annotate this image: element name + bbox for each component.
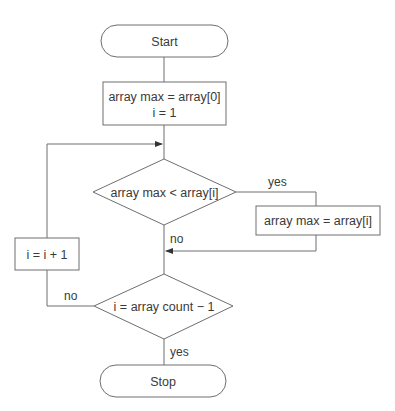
init-label-line-1: array max = array[0] bbox=[108, 90, 220, 104]
compare-label: array max < array[i] bbox=[110, 186, 218, 200]
check-end-decision: i = array count − 1 bbox=[94, 274, 233, 339]
check-end-no-label: no bbox=[64, 289, 78, 303]
edge-update-to-merge bbox=[166, 235, 316, 251]
start-label: Start bbox=[151, 35, 178, 49]
start-terminal: Start bbox=[101, 25, 228, 57]
compare-no-label: no bbox=[170, 232, 184, 246]
increment-label: i = i + 1 bbox=[27, 248, 68, 262]
flowchart-diagram: Start array max = array[0] i = 1 array m… bbox=[0, 0, 395, 411]
update-max-process-box: array max = array[i] bbox=[256, 206, 380, 235]
compare-decision: array max < array[i] bbox=[93, 159, 236, 225]
check-end-label: i = array count − 1 bbox=[114, 300, 215, 314]
init-process-box: array max = array[0] i = 1 bbox=[103, 82, 226, 125]
check-end-yes-label: yes bbox=[170, 345, 189, 359]
edge-compare-yes bbox=[236, 192, 316, 206]
update-max-label: array max = array[i] bbox=[264, 214, 372, 228]
stop-label: Stop bbox=[150, 375, 176, 389]
stop-terminal: Stop bbox=[100, 365, 226, 397]
init-label-line-2: i = 1 bbox=[153, 106, 177, 120]
increment-process-box: i = i + 1 bbox=[15, 238, 79, 270]
compare-yes-label: yes bbox=[268, 175, 287, 189]
